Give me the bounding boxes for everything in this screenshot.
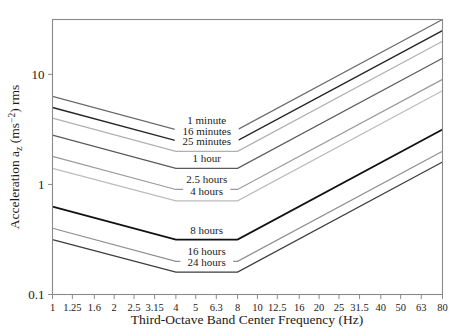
x-tick-label: 31.5 [350,302,368,313]
curve-label-2-5-hours: 2.5 hours [186,173,227,185]
x-tick-label: 5 [193,302,198,313]
curve-labels-group: 1 minute16 minutes25 minutes1 hour2.5 ho… [175,114,239,269]
x-tick-label: 25 [334,302,345,313]
x-tick-label: 2 [112,302,117,313]
vibration-exposure-chart: 11.251.622.53.15456.381012.516202531.540… [0,0,464,334]
x-tick-label: 6.3 [210,302,223,313]
x-tick-label: 80 [437,302,448,313]
x-tick-label: 40 [376,302,387,313]
x-tick-label: 4 [173,302,179,313]
svg-text:Acceleration az (ms−2) rms: Acceleration az (ms−2) rms [7,85,25,230]
x-tick-label: 20 [314,302,325,313]
curve-label-4-hours: 4 hours [190,185,223,197]
x-tick-label: 12.5 [268,302,286,313]
y-tick-label: 1 [38,177,45,192]
y-tick-label: 10 [32,67,45,82]
x-tick-label: 1.25 [63,302,81,313]
curve-label-8-hours: 8 hours [190,224,223,236]
x-tick-label: 3.15 [145,302,163,313]
x-tick-label: 1 [50,302,55,313]
y-axis-title-pre: Acceleration a [7,151,22,229]
curve-label-24-hours: 24 hours [188,256,226,268]
x-axis-title: Third-Octave Band Center Frequency (Hz) [131,312,363,327]
x-tick-label: 1.6 [88,302,101,313]
x-tick-label: 2.5 [127,302,140,313]
y-axis-title: Acceleration az (ms−2) rms [7,85,25,230]
y-axis-title-post: (ms [7,123,22,147]
x-tick-label: 63 [416,302,427,313]
curve-label-1-hour: 1 hour [193,152,222,164]
x-tick-label: 16 [294,302,305,313]
chart-container: 11.251.622.53.15456.381012.516202531.540… [0,0,464,334]
curve-label-25-minutes: 25 minutes [182,135,231,147]
x-tick-label: 50 [395,302,406,313]
x-tick-label: 10 [252,302,263,313]
y-tick-label: 0.1 [28,287,44,302]
chart-background [0,0,464,334]
y-axis-title-sup: −2 [7,113,17,123]
x-tick-label: 8 [235,302,240,313]
y-axis-title-tail: ) rms [7,85,22,113]
